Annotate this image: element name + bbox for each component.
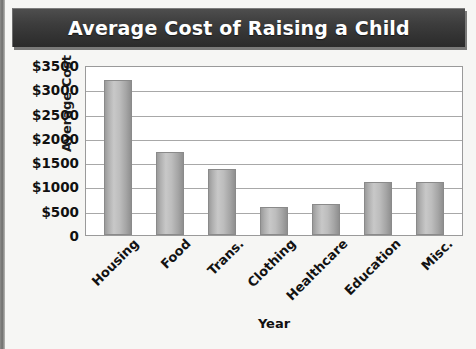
chart-title: Average Cost of Raising a Child (68, 17, 410, 39)
y-axis-tick-label: 0 (70, 228, 79, 244)
bar-slot (300, 67, 352, 235)
bar-slot (248, 67, 300, 235)
bar[interactable] (364, 182, 392, 235)
bar-series (86, 67, 462, 235)
x-axis-tick-labels: HousingFoodTrans.ClothingHealthcareEduca… (85, 236, 463, 306)
bar[interactable] (416, 182, 444, 235)
bar-slot (404, 67, 456, 235)
chart-title-bar: Average Cost of Raising a Child (12, 8, 465, 47)
bar[interactable] (260, 207, 288, 235)
bar[interactable] (208, 169, 236, 235)
bar-slot (144, 67, 196, 235)
y-axis-tick-label: $1000 (32, 179, 79, 195)
bar-slot (352, 67, 404, 235)
x-axis-title: Year (85, 316, 463, 331)
y-axis-tick-label: $3500 (32, 58, 79, 74)
plot-area (85, 66, 463, 236)
y-axis-tick-label: $2000 (32, 131, 79, 147)
bar[interactable] (156, 152, 184, 235)
y-axis-tick-label: $2500 (32, 107, 79, 123)
y-axis-tick-label: $1500 (32, 155, 79, 171)
chart-figure: Average Cost of Raising a Child Average … (5, 0, 476, 349)
y-axis-tick-labels: $3500$3000$2500$2000$1500$1000$5000 (33, 66, 83, 236)
y-axis-tick-label: $500 (41, 204, 79, 220)
bar-slot (92, 67, 144, 235)
bar[interactable] (312, 204, 340, 235)
y-axis-tick-label: $3000 (32, 82, 79, 98)
bar[interactable] (104, 80, 132, 235)
bar-slot (196, 67, 248, 235)
